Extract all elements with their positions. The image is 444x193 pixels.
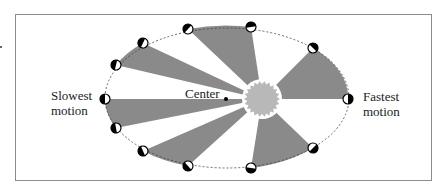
slowest-motion-label: Slowest motion (51, 88, 92, 118)
sun-icon (242, 79, 282, 119)
fastest-line-2: motion (363, 104, 400, 119)
center-label: Center (185, 86, 220, 101)
planet-icon (181, 22, 195, 36)
planet-icon (343, 94, 353, 104)
fastest-line-1: Fastest (363, 89, 400, 104)
fastest-motion-label: Fastest motion (363, 89, 400, 119)
center-point (224, 97, 228, 101)
slowest-line-1: Slowest (51, 88, 92, 103)
slowest-line-2: motion (51, 103, 92, 118)
planet-icon (306, 141, 320, 155)
planet-icon (100, 94, 110, 104)
